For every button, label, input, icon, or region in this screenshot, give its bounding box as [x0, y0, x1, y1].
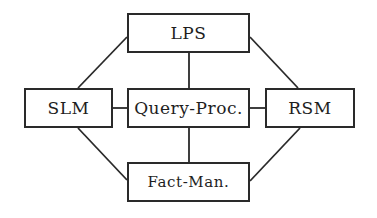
node-fact-man: Fact-Man.: [127, 162, 250, 202]
node-slm-label: SLM: [48, 98, 90, 118]
edge-rsm-fact: [250, 128, 300, 181]
node-slm: SLM: [24, 88, 113, 128]
architecture-diagram: LPS SLM Query-Proc. RSM Fact-Man.: [0, 0, 377, 218]
node-lps-label: LPS: [171, 23, 207, 43]
node-rsm: RSM: [265, 88, 355, 128]
node-rsm-label: RSM: [288, 98, 331, 118]
node-query-proc: Query-Proc.: [127, 88, 250, 128]
node-lps: LPS: [127, 13, 250, 53]
edge-lps-slm: [78, 37, 127, 88]
edge-lps-rsm: [250, 37, 298, 88]
edge-slm-fact: [78, 128, 127, 180]
node-query-proc-label: Query-Proc.: [134, 98, 243, 118]
node-fact-man-label: Fact-Man.: [148, 173, 230, 191]
